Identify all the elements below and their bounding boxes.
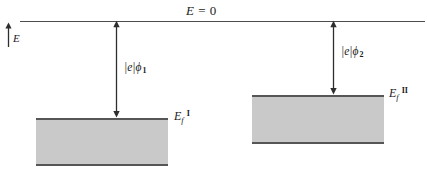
work-function-arrow-metal-2-icon	[327, 20, 340, 97]
work-function-arrow-metal-1-icon	[110, 20, 123, 120]
vacuum-level-label-zero: 0	[210, 3, 217, 18]
work-function-label-metal-1: |e|ϕ1	[124, 62, 146, 75]
fermi-level-superscript-metal-2: II	[399, 86, 408, 95]
fermi-level-superscript-metal-1: I	[184, 109, 190, 118]
energy-level-diagram: E = 0 E |e|ϕ1 EfI |e|ϕ2 EfII	[0, 0, 427, 176]
fermi-level-label-metal-2: EfII	[389, 87, 408, 102]
energy-axis-label: E	[13, 33, 20, 44]
work-function-abs-e-metal-1: |e|	[124, 61, 135, 73]
filled-band-metal-2	[252, 95, 384, 144]
work-function-label-metal-2: |e|ϕ2	[341, 46, 363, 59]
work-function-subscript-metal-2: 2	[358, 50, 363, 59]
vacuum-level-label-equals: =	[194, 3, 209, 18]
fermi-level-label-metal-1: EfI	[174, 110, 190, 125]
work-function-subscript-metal-1: 1	[141, 66, 146, 75]
vacuum-level-label: E = 0	[186, 4, 217, 17]
vacuum-level-line	[20, 21, 425, 22]
filled-band-metal-1	[36, 118, 168, 166]
work-function-abs-e-metal-2: |e|	[341, 45, 352, 57]
